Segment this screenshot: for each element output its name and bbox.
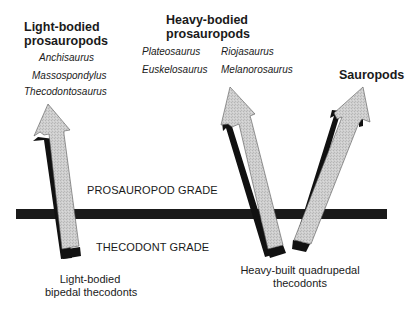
heavy-thecodonts-line1: Heavy-built quadrupedal [240, 264, 360, 277]
light-prosauropods-title-line1: Light-bodied [24, 20, 108, 34]
genus-anchisaurus: Anchisaurus [39, 52, 94, 64]
heavy-thecodonts-line2: thecodonts [240, 277, 360, 290]
prosauropod-grade-label: PROSAUROPOD GRADE [87, 184, 218, 197]
light-prosauropods-title: Light-bodied prosauropods [24, 20, 108, 49]
arrow-sauropod-lineage [292, 87, 370, 252]
heavy-prosauropods-title: Heavy-bodied prosauropods [166, 13, 250, 42]
light-prosauropods-title-line2: prosauropods [24, 34, 108, 48]
evolution-diagram: Light-bodied prosauropods Anchisaurus Ma… [0, 0, 406, 309]
arrow-light-lineage [33, 104, 81, 259]
genus-riojasaurus: Riojasaurus [221, 46, 274, 58]
genus-thecodontosaurus: Thecodontosaurus [24, 86, 107, 98]
light-thecodonts-line1: Light-bodied [45, 273, 135, 286]
thecodont-grade-label: THECODONT GRADE [96, 241, 209, 254]
heavy-prosauropods-title-line2: prosauropods [166, 27, 250, 41]
heavy-thecodonts-label: Heavy-built quadrupedal thecodonts [240, 264, 360, 289]
genus-massospondylus: Massospondylus [32, 70, 106, 82]
heavy-prosauropods-title-line1: Heavy-bodied [166, 13, 250, 27]
genus-euskelosaurus: Euskelosaurus [142, 64, 208, 76]
sauropods-title: Sauropods [339, 68, 404, 82]
light-thecodonts-label: Light-bodied bipedal thecodonts [45, 273, 135, 298]
light-thecodonts-line2: bipedal thecodonts [45, 286, 135, 299]
arrow-heavy-prosauropod-lineage [221, 87, 286, 258]
genus-melanorosaurus: Melanorosaurus [221, 64, 293, 76]
genus-plateosaurus: Plateosaurus [142, 46, 200, 58]
